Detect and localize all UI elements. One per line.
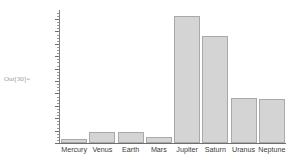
y-axis-minor-tick (57, 78, 59, 79)
bar (118, 132, 144, 143)
y-axis-minor-tick (57, 112, 59, 113)
notebook-output-cell: Out[30]= MercuryVenusEarthMarsJupiterSat… (0, 0, 286, 168)
y-axis-minor-tick (57, 121, 59, 122)
y-axis-minor-tick (57, 90, 59, 91)
x-axis-tick-label: Mars (145, 145, 173, 155)
x-axis-tick-label: Neptune (258, 145, 286, 155)
y-axis-minor-tick (57, 140, 59, 141)
x-axis-tick-label: Uranus (230, 145, 258, 155)
bar-series (60, 10, 286, 143)
y-axis-minor-tick (57, 100, 59, 101)
y-axis-minor-tick (57, 84, 59, 85)
y-axis-minor-tick (57, 59, 59, 60)
x-axis-tick-label: Mercury (60, 145, 88, 155)
output-cell-label: Out[30]= (4, 75, 30, 83)
y-axis-minor-tick (57, 13, 59, 14)
y-axis-major-tick (55, 106, 59, 107)
y-axis-minor-tick (57, 109, 59, 110)
y-axis-major-tick (55, 69, 59, 70)
y-axis-minor-tick (57, 128, 59, 129)
bar (202, 36, 228, 143)
y-axis-minor-tick (57, 53, 59, 54)
y-axis-major-tick (55, 93, 59, 94)
y-axis-minor-tick (57, 38, 59, 39)
y-axis-major-tick (55, 44, 59, 45)
y-axis-major-tick (55, 31, 59, 32)
y-axis-major-tick (55, 118, 59, 119)
x-axis-tick-label: Jupiter (173, 145, 201, 155)
y-axis-major-tick (55, 56, 59, 57)
y-axis-minor-tick (57, 87, 59, 88)
x-axis-tick-labels: MercuryVenusEarthMarsJupiterSaturnUranus… (60, 145, 286, 159)
y-axis-major-tick (55, 19, 59, 20)
bar (174, 16, 200, 143)
bar (259, 99, 285, 143)
y-axis-minor-tick (57, 50, 59, 51)
y-axis-minor-tick (57, 62, 59, 63)
y-axis-minor-tick (57, 97, 59, 98)
bar (89, 132, 115, 143)
x-axis-tick-label: Earth (117, 145, 145, 155)
y-axis-minor-tick (57, 25, 59, 26)
bar-chart: MercuryVenusEarthMarsJupiterSaturnUranus… (59, 8, 286, 160)
x-axis-tick-label: Venus (88, 145, 116, 155)
y-axis-major-tick (55, 131, 59, 132)
y-axis-minor-tick (57, 47, 59, 48)
bar (231, 98, 257, 143)
y-axis-minor-tick (57, 75, 59, 76)
y-axis-minor-tick (57, 22, 59, 23)
y-axis-major-tick (55, 81, 59, 82)
y-axis-minor-tick (57, 103, 59, 104)
y-axis-minor-tick (57, 72, 59, 73)
y-axis-minor-tick (57, 134, 59, 135)
y-axis-minor-tick (57, 137, 59, 138)
y-axis-minor-tick (57, 66, 59, 67)
x-axis-tick-label: Saturn (201, 145, 229, 155)
y-axis-minor-tick (57, 115, 59, 116)
y-axis-minor-tick (57, 16, 59, 17)
y-axis-minor-tick (57, 35, 59, 36)
y-axis-minor-tick (57, 124, 59, 125)
y-axis-minor-tick (57, 28, 59, 29)
x-axis-line (59, 143, 286, 144)
y-axis-minor-tick (57, 41, 59, 42)
